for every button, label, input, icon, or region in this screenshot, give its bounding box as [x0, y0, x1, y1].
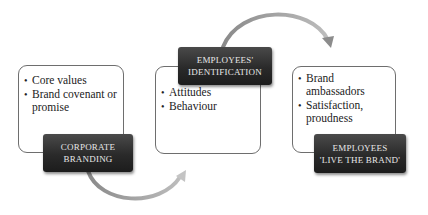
- bullet-list: Brand ambassadors Satisfaction, proudnes…: [297, 72, 393, 126]
- label-line: CORPORATE: [43, 141, 133, 153]
- stage-label-corporate-branding: CORPORATE BRANDING: [43, 134, 133, 172]
- bullet-item: Satisfaction, proudness: [297, 99, 393, 125]
- bullet-list: Core values Brand covenant or promise: [23, 74, 123, 115]
- label-line: EMPLOYEES: [314, 142, 406, 154]
- stage-label-employees-identification: EMPLOYEES' IDENTIFICATION: [178, 47, 272, 85]
- label-line: EMPLOYEES': [178, 54, 272, 66]
- label-line: BRANDING: [43, 153, 133, 165]
- bullet-item: Brand covenant or promise: [23, 88, 123, 114]
- bullet-item: Core values: [23, 74, 123, 87]
- curved-arrow-icon: [88, 170, 186, 198]
- bullet-item: Attitudes: [160, 86, 260, 99]
- curved-arrow-icon: [223, 15, 334, 48]
- label-line: IDENTIFICATION: [178, 66, 272, 78]
- bullet-item: Behaviour: [160, 100, 260, 113]
- bullet-list: Attitudes Behaviour: [160, 86, 260, 114]
- bullet-item: Brand ambassadors: [297, 72, 393, 98]
- stage-label-live-the-brand: EMPLOYEES 'LIVE THE BRAND': [314, 134, 406, 173]
- label-line: 'LIVE THE BRAND': [314, 154, 406, 166]
